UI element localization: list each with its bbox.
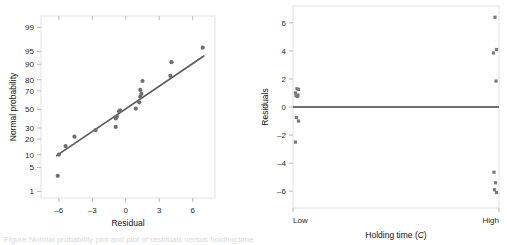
data-point [140,79,144,83]
y-tick-label-4: 2 [282,75,287,84]
data-point [495,191,498,194]
data-point [94,128,98,132]
data-point [297,88,300,91]
y-tick-label-10: 10 [25,151,34,160]
y-tick-label-20: 20 [25,135,34,144]
data-point [137,100,141,104]
y-axis-title: Normal probability [8,72,18,141]
data-point [168,74,172,78]
reference-line [57,56,204,156]
data-point [296,95,299,98]
data-point [492,171,495,174]
data-point [493,188,496,191]
x-tick-label-0: Low [293,216,308,225]
y-tick-label-5: 4 [282,47,287,56]
x-tick-label-1: High [483,216,499,225]
y-tick-label-70: 70 [25,87,34,96]
data-point [492,51,495,54]
y-tick-label-2: –2 [277,131,286,140]
data-point [114,125,118,129]
data-point [72,135,76,139]
x-tick-label-3: 3 [157,206,162,215]
figure-caption: Figure Normal probability plot and plot … [4,235,254,245]
y-tick-label-6: 6 [282,19,287,28]
y-tick-label-0: –6 [277,187,286,196]
data-point [63,144,67,148]
data-point [138,88,142,92]
data-point [118,108,122,112]
y-tick-label-1: –4 [277,159,286,168]
data-point [297,119,300,122]
x-tick-label-2: 0 [124,206,129,215]
data-point [201,46,205,50]
x-axis-title-text: Holding time ( [365,230,418,240]
data-point [494,79,497,82]
y-tick-label-90: 90 [25,60,34,69]
y-tick-label-3: 0 [282,103,287,112]
data-point [169,60,173,64]
y-tick-label-95: 95 [25,47,34,56]
data-point [294,140,297,143]
data-point [115,114,119,118]
figure-container: 15102030507080909599–6–3036ResidualNorma… [0,0,507,245]
data-point [134,106,138,110]
y-tick-label-80: 80 [25,76,34,85]
y-tick-label-99: 99 [25,23,34,32]
y-tick-label-50: 50 [25,105,34,114]
data-point [139,92,143,96]
y-tick-label-1: 1 [30,187,35,196]
residuals-plot-svg: –6–4–20246LowHighResidualsHolding time (… [253,0,507,245]
y-tick-label-5: 5 [30,163,35,172]
normal-probability-plot-svg: 15102030507080909599–6–3036ResidualNorma… [0,0,253,245]
y-axis-title: Residuals [260,88,270,125]
x-axis-title: Holding time (C) [365,230,427,240]
x-axis-title-close: ) [424,230,427,240]
y-tick-label-30: 30 [25,124,34,133]
x-tick-label-0: –6 [54,206,63,215]
data-point [56,174,60,178]
data-point [495,48,498,51]
data-point [493,16,496,19]
data-point [57,153,61,157]
residuals-plot-panel: –6–4–20246LowHighResidualsHolding time (… [253,0,507,245]
data-point [494,181,497,184]
x-tick-label-1: –3 [88,206,97,215]
x-axis-title: Residual [111,218,144,228]
x-tick-label-4: 6 [190,206,195,215]
data-point [295,116,298,119]
normal-probability-plot-panel: 15102030507080909599–6–3036ResidualNorma… [0,0,253,245]
